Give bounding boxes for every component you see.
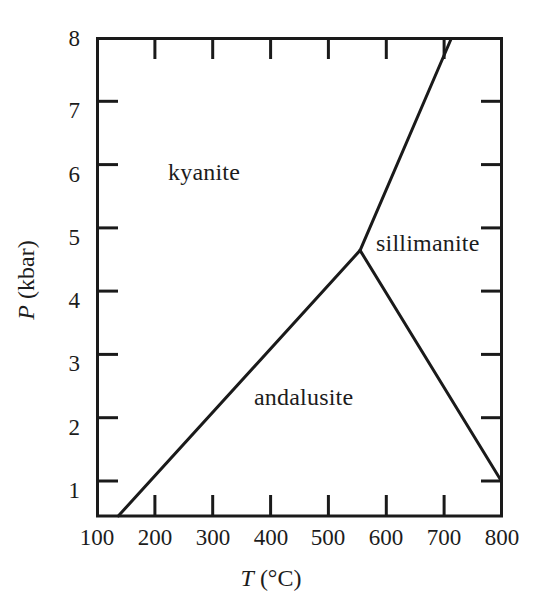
ytick-label-3: 3: [40, 352, 80, 375]
xtick-label-200: 200: [125, 526, 185, 549]
xtick-label-600: 600: [356, 526, 416, 549]
ytick-label-4: 4: [40, 289, 80, 312]
ytick-label-1: 1: [40, 479, 80, 502]
region-label-andalusite: andalusite: [254, 385, 353, 409]
y-axis-ticks-right: [481, 101, 501, 481]
xtick-label-700: 700: [414, 526, 474, 549]
y-axis-symbol: P: [13, 305, 39, 320]
ytick-label-2: 2: [40, 416, 80, 439]
xtick-label-800: 800: [472, 526, 532, 549]
ytick-label-6: 6: [40, 163, 80, 186]
x-axis-unit: (°C): [260, 565, 302, 591]
phase-boundary-lines: [118, 39, 501, 517]
y-axis-title: P (kbar): [14, 160, 38, 400]
plot-frame: [98, 39, 502, 517]
region-label-kyanite: kyanite: [168, 160, 240, 184]
region-label-sillimanite: sillimanite: [376, 231, 480, 255]
kyanite-sillimanite-boundary: [360, 39, 451, 251]
andalusite-sillimanite-boundary: [360, 250, 501, 481]
ytick-label-7: 7: [40, 99, 80, 122]
xtick-label-500: 500: [298, 526, 358, 549]
xtick-label-300: 300: [183, 526, 243, 549]
phase-diagram-figure: 1 2 3 4 5 6 7 8 100 200 300 400 500 600 …: [0, 0, 542, 606]
ytick-label-5: 5: [40, 226, 80, 249]
y-axis-ticks: [98, 101, 118, 481]
plot-area: [0, 0, 542, 606]
x-axis-title: T (°C): [0, 566, 542, 590]
xtick-label-100: 100: [67, 526, 127, 549]
x-axis-ticks-bottom: [155, 495, 444, 515]
ytick-label-8: 8: [40, 27, 80, 50]
xtick-label-400: 400: [241, 526, 301, 549]
x-axis-ticks-top: [155, 39, 444, 59]
x-axis-symbol: T: [241, 565, 254, 591]
y-axis-unit: (kbar): [13, 240, 39, 299]
